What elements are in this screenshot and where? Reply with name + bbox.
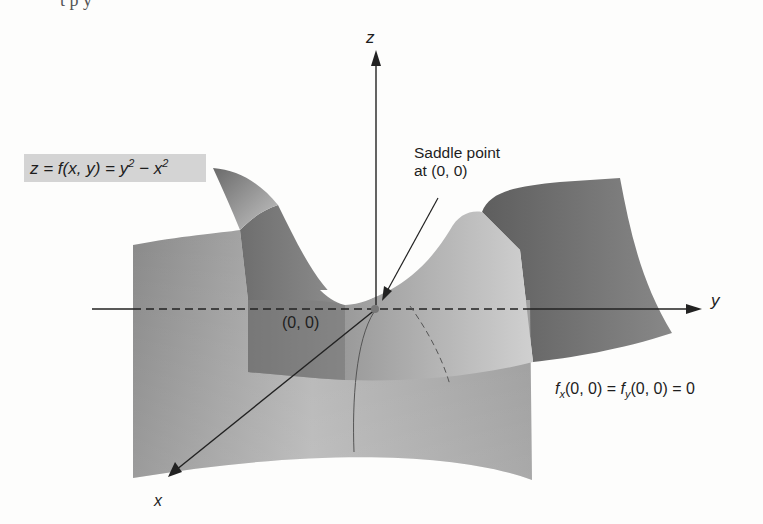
- x-axis-label: x: [154, 492, 162, 510]
- partial-end: (0, 0) = 0: [630, 380, 694, 397]
- partial-mid: (0, 0) =: [565, 380, 621, 397]
- origin-label: (0, 0): [282, 314, 319, 332]
- equation-mid: − x: [134, 159, 162, 178]
- saddle-annotation-line2: at (0, 0): [414, 162, 500, 180]
- saddle-annotation-line1: Saddle point: [414, 144, 500, 162]
- partial-derivatives-label: fx(0, 0) = fy(0, 0) = 0: [555, 380, 695, 400]
- z-axis-label: z: [366, 28, 375, 48]
- surface-equation: z = f(x, y) = y2 − x2: [30, 157, 168, 179]
- z-axis-arrowhead: [371, 50, 381, 66]
- equation-exponent: 2: [162, 157, 168, 169]
- y-axis-label: y: [711, 291, 720, 311]
- y-axis-arrowhead: [686, 304, 702, 314]
- saddle-point-annotation: Saddle point at (0, 0): [414, 144, 500, 180]
- saddle-point-marker: [371, 305, 379, 313]
- saddle-surface-diagram: [0, 0, 763, 524]
- equation-main: z = f(x, y) = y: [30, 159, 128, 178]
